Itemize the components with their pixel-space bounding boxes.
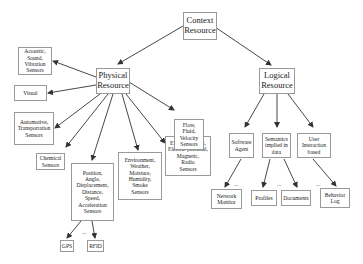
edge-arrow-context-to-physical: [118, 26, 183, 64]
node-label: Automotive, Transportation Sensors: [18, 119, 51, 138]
node-context: Context Resource: [183, 12, 217, 40]
node-label: Logical Resource: [261, 71, 293, 91]
node-gps: GPS: [60, 240, 74, 252]
node-label: Network Monitor: [217, 193, 237, 206]
node-label: Semantics implied in data: [265, 136, 288, 155]
node-position: Position, Angle, Displacement, Distance,…: [71, 163, 114, 221]
node-physical: Physical Resource: [96, 68, 130, 94]
node-visual: Visual: [14, 85, 47, 101]
node-logical: Logical Resource: [259, 68, 295, 94]
node-label: Visual: [23, 90, 37, 96]
node-chemical: Chemical Sensors: [36, 153, 65, 170]
edge-arrow-position-to-rfid: [92, 221, 95, 238]
node-label: Behavior Log: [325, 192, 346, 205]
edge-arrow-semantics-to-profiles: [263, 159, 270, 187]
node-rfid: RFID: [87, 240, 104, 252]
ellipsis-marker: ...: [277, 181, 282, 187]
node-label: GPS: [62, 243, 72, 249]
node-automotive: Automotive, Transportation Sensors: [14, 112, 54, 145]
edge-arrow-physical-to-chemical: [66, 94, 108, 147]
edge-arrow-physical-to-acoustic: [53, 61, 96, 77]
node-label: Acoustic, Sound, Vibration Sensors: [24, 48, 45, 74]
edge-arrow-logical-to-userinteraction: [288, 94, 313, 127]
ellipsis-marker: ...: [82, 229, 87, 235]
edge-arrow-physical-to-position: [92, 94, 113, 160]
edge-arrow-position-to-gps: [67, 221, 81, 238]
ellipsis-marker: ...: [234, 181, 239, 187]
node-label: Physical Resource: [97, 71, 129, 91]
node-network: Network Monitor: [211, 189, 242, 209]
node-label: Position, Angle, Displacement, Distance,…: [76, 170, 108, 215]
node-label: Software Agent: [231, 139, 251, 152]
edge-arrow-semantics-to-documents: [284, 159, 297, 187]
context-resource-diagram: Context ResourcePhysical ResourceLogical…: [0, 0, 363, 264]
node-label: Flow, Fluid, Velocity Sensors: [180, 122, 199, 148]
node-documents: Documents: [281, 190, 311, 206]
edge-arrow-physical-to-automotive: [55, 94, 100, 128]
node-label: Context Resource: [184, 16, 216, 36]
node-semantics: Semantics implied in data: [262, 133, 291, 158]
node-label: Profiles: [255, 195, 272, 201]
ellipsis-marker: ...: [316, 181, 321, 187]
node-flow: Flow, Fluid, Velocity Sensors: [174, 119, 204, 150]
node-userinteraction: User Interaction based: [297, 133, 331, 158]
node-label: Documents: [283, 195, 308, 201]
node-profiles: Profiles: [251, 190, 277, 206]
node-behavior: Behavior Log: [320, 188, 350, 208]
edge-arrow-logical-to-software: [245, 94, 264, 127]
node-label: User Interaction based: [302, 136, 326, 155]
edge-arrow-physical-to-environment: [122, 94, 138, 150]
edge-arrow-context-to-logical: [215, 27, 271, 65]
edge-arrow-physical-to-electric: [126, 94, 165, 143]
node-acoustic: Acoustic, Sound, Vibration Sensors: [18, 47, 52, 75]
node-label: Chemical Sensors: [40, 155, 61, 168]
node-label: Environment, Weather, Moisture, Humidity…: [125, 157, 156, 196]
node-environment: Environment, Weather, Moisture, Humidity…: [118, 152, 162, 200]
node-label: RFID: [89, 243, 102, 249]
node-software: Software Agent: [229, 133, 254, 158]
edge-arrow-physical-to-visual: [48, 85, 96, 93]
